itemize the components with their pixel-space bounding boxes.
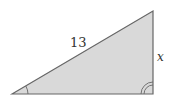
- right-triangle: [12, 11, 153, 94]
- triangle-diagram: 13 x: [0, 0, 170, 98]
- vertical-side-label: x: [157, 50, 164, 64]
- hypotenuse-label: 13: [70, 35, 87, 50]
